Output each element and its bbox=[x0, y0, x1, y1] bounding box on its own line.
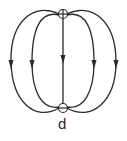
field-line-inner-right bbox=[67, 14, 94, 107]
arrow-down-icon bbox=[92, 60, 97, 69]
field-line-outer-left bbox=[11, 10, 59, 112]
field-line-inner-left bbox=[32, 14, 59, 107]
positive-charge-icon bbox=[59, 10, 68, 19]
figure-label: d bbox=[58, 115, 66, 132]
arrow-down-icon bbox=[114, 60, 119, 69]
arrow-down-icon bbox=[9, 60, 14, 69]
negative-charge-icon bbox=[59, 104, 68, 113]
arrow-down-icon bbox=[61, 55, 66, 64]
field-line-outer-right bbox=[67, 10, 116, 112]
arrow-down-icon bbox=[30, 60, 35, 69]
